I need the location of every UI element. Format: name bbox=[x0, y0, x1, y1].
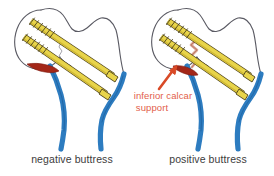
screw-head-inferior-right bbox=[236, 89, 248, 100]
annotation-line-1: inferior calcar bbox=[134, 90, 193, 101]
panel-positive-buttress: inferior calcar support positive buttres… bbox=[134, 9, 261, 165]
screw-head-superior bbox=[106, 71, 118, 82]
screw-head-superior-right bbox=[243, 71, 255, 82]
figure-root: negative buttress bbox=[0, 0, 274, 176]
annotation-line-2: support bbox=[136, 102, 169, 113]
caption-positive-buttress: positive buttress bbox=[169, 153, 247, 165]
femoral-shaft-medial-cortex-right bbox=[187, 66, 201, 149]
screw-head-inferior bbox=[99, 89, 111, 100]
calcar-femorale-negative bbox=[27, 63, 59, 72]
femoral-shaft-medial-cortex bbox=[50, 66, 64, 149]
caption-negative-buttress: negative buttress bbox=[31, 153, 113, 165]
medical-illustration-svg: negative buttress bbox=[0, 0, 274, 176]
panel-negative-buttress: negative buttress bbox=[15, 9, 124, 165]
inferior-calcar-support-arrow bbox=[159, 65, 177, 89]
